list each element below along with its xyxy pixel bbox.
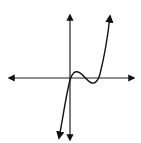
chart-canvas [0, 0, 141, 143]
cubic-function-graph [0, 0, 141, 143]
cubic-curve [59, 16, 110, 138]
